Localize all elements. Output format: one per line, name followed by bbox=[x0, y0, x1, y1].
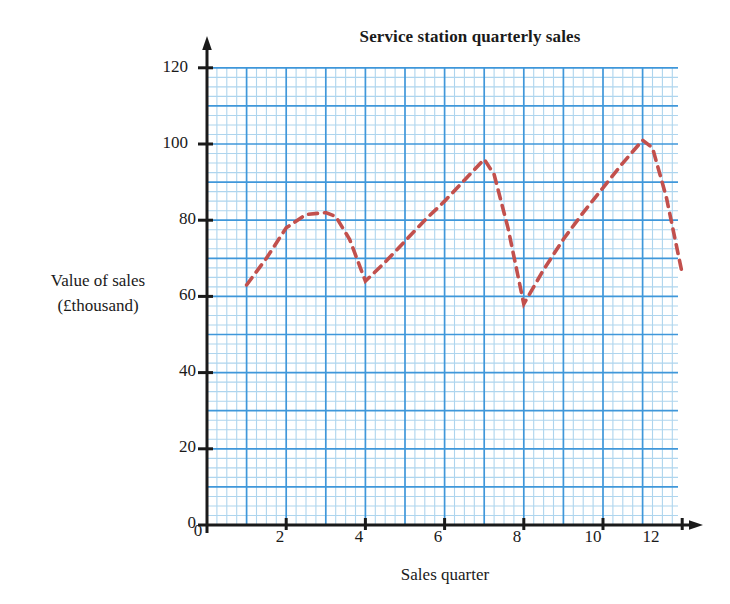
chart-figure: Service station quarterly sales Value of… bbox=[0, 0, 730, 604]
plot-area bbox=[0, 0, 730, 604]
axis-tick-marks bbox=[198, 68, 682, 530]
major-gridlines bbox=[207, 68, 678, 525]
